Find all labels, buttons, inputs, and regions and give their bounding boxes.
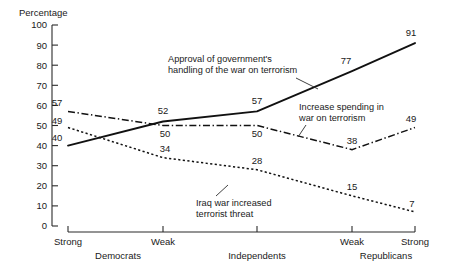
x-axis-tick-labels: StrongWeakWeakStrong: [54, 236, 429, 247]
x-axis-line: [68, 226, 415, 232]
data-point-label: 52: [158, 105, 169, 116]
data-point-label: 7: [409, 198, 414, 209]
annotation-iraq-line1: Iraq war increased: [196, 198, 272, 208]
y-axis-title: Percentage: [19, 7, 68, 18]
y-axis-tick-label: 30: [36, 160, 47, 171]
data-point-label: 57: [252, 95, 263, 106]
y-axis-tick-label: 60: [36, 100, 47, 111]
data-point-label: 28: [252, 155, 263, 166]
chart-container: Percentage 1009080706050403020100 405257…: [0, 0, 451, 270]
y-axis-tick-label: 10: [36, 200, 47, 211]
annotation-approval: Approval of government's handling of the…: [168, 54, 318, 89]
annotation-increase-spending: Increase spending in war on terrorism: [298, 102, 384, 137]
annotation-iraq-leader: [216, 185, 228, 196]
annotation-spending-leader: [298, 125, 306, 137]
y-axis-tick-label: 50: [36, 120, 47, 131]
data-point-label: 38: [347, 135, 358, 146]
annotation-iraq-line2: terrorist threat: [196, 209, 254, 219]
y-axis-tick-label: 20: [36, 180, 47, 191]
annotation-spending-line2: war on terrorism: [298, 113, 366, 123]
y-axis-tick-label: 70: [36, 80, 47, 91]
annotation-spending-line1: Increase spending in: [299, 102, 384, 112]
data-labels-iraq-war-threat: 493428157: [52, 115, 415, 209]
group-label-republicans: Republicans: [360, 250, 413, 261]
data-point-label: 57: [52, 97, 63, 108]
y-axis-tick-label: 90: [36, 40, 47, 51]
group-label-democrats: Democrats: [95, 250, 141, 261]
data-point-label: 34: [160, 143, 171, 154]
data-point-label: 50: [160, 128, 171, 139]
data-point-label: 91: [406, 27, 417, 38]
annotation-iraq-war: Iraq war increased terrorist threat: [196, 185, 272, 219]
y-axis-tick-label: 80: [36, 60, 47, 71]
line-chart: Percentage 1009080706050403020100 405257…: [0, 0, 451, 270]
data-point-label: 49: [406, 113, 417, 124]
data-point-label: 15: [347, 181, 358, 192]
data-point-label: 50: [252, 128, 263, 139]
x-axis-tick-label: Weak: [151, 236, 175, 247]
data-point-label: 77: [341, 55, 352, 66]
group-label-independents: Independents: [228, 250, 286, 261]
y-axis-tick-label: 100: [31, 19, 47, 30]
x-axis-tick-label: Strong: [54, 236, 82, 247]
x-axis-ticks: [163, 226, 352, 232]
annotation-approval-line2: handling of the war on terrorism: [168, 65, 298, 75]
x-axis-tick-label: Strong: [401, 236, 429, 247]
x-axis-tick-label: Weak: [340, 236, 364, 247]
data-point-label: 40: [52, 132, 63, 143]
annotation-approval-line1: Approval of government's: [168, 54, 272, 64]
y-axis-tick-label: 0: [42, 220, 47, 231]
y-axis-tick-label: 40: [36, 140, 47, 151]
annotation-approval-leader: [296, 78, 318, 89]
data-point-label: 49: [52, 115, 63, 126]
